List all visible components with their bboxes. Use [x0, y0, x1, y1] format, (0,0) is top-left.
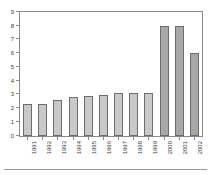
y-axis-tick-label: 2	[11, 105, 16, 111]
bottom-divider-rule	[4, 169, 207, 170]
bar-slot	[141, 12, 156, 136]
x-axis-label-slot: 2001	[172, 141, 187, 167]
y-axis-tick-mark	[16, 107, 19, 108]
x-axis-tick-mark	[179, 137, 180, 140]
bar-chart-figure: 0123456789 19911992199319941995199619971…	[0, 0, 211, 175]
bar	[69, 97, 78, 136]
y-axis-tick: 0	[11, 130, 19, 140]
bar	[99, 95, 108, 136]
bar	[53, 100, 62, 136]
x-axis-tick-mark	[73, 137, 74, 140]
y-axis-tick: 3	[11, 89, 19, 99]
bar	[190, 53, 199, 136]
y-axis-tick-mark	[16, 66, 19, 67]
bar	[38, 104, 47, 136]
y-axis-tick: 9	[11, 6, 19, 16]
bar-slot	[126, 12, 141, 136]
y-axis-tick: 8	[11, 20, 19, 30]
x-axis-label-slot: 1998	[126, 141, 141, 167]
bar	[114, 93, 123, 136]
y-axis-tick-mark	[16, 135, 19, 136]
x-axis-tick-mark	[194, 137, 195, 140]
x-axis-label-slot: 1994	[66, 141, 81, 167]
y-axis-tick-label: 9	[11, 9, 16, 15]
y-axis-tick: 7	[11, 34, 19, 44]
x-axis-label-slot: 1999	[141, 141, 156, 167]
bar	[23, 104, 32, 136]
y-axis-tick: 5	[11, 61, 19, 71]
y-axis-tick: 1	[11, 116, 19, 126]
y-axis-tick-mark	[16, 121, 19, 122]
y-axis-tick-mark	[16, 25, 19, 26]
bar	[175, 26, 184, 136]
bar-slot	[96, 12, 111, 136]
x-axis-tick-mark	[88, 137, 89, 140]
x-axis-label-slot: 1996	[96, 141, 111, 167]
y-axis-tick-mark	[16, 38, 19, 39]
bar	[144, 93, 153, 136]
bar-slot	[157, 12, 172, 136]
x-axis-tick-mark	[42, 137, 43, 140]
bar-slot	[20, 12, 35, 136]
x-axis-label-slot: 1991	[20, 141, 35, 167]
x-axis-tick-mark	[133, 137, 134, 140]
y-axis-tick-mark	[16, 93, 19, 94]
bar-slot	[187, 12, 202, 136]
bar-slot	[172, 12, 187, 136]
y-axis-tick-label: 4	[11, 78, 16, 84]
y-axis: 0123456789	[0, 11, 19, 137]
x-axis-tick-mark	[164, 137, 165, 140]
x-axis-label-slot: 1995	[81, 141, 96, 167]
y-axis-tick-label: 0	[11, 133, 16, 139]
y-axis-tick-label: 1	[11, 119, 16, 125]
bar-slot	[81, 12, 96, 136]
x-axis-label-slot: 1992	[35, 141, 50, 167]
x-axis-label-slot: 1993	[50, 141, 65, 167]
x-axis-label-slot: 1997	[111, 141, 126, 167]
bar-slot	[50, 12, 65, 136]
y-axis-tick-mark	[16, 80, 19, 81]
x-axis-tick-mark	[27, 137, 28, 140]
bar-slot	[66, 12, 81, 136]
bar-slot	[35, 12, 50, 136]
x-axis-tick-mark	[57, 137, 58, 140]
y-axis-tick-label: 3	[11, 91, 16, 97]
y-axis-tick-mark	[16, 11, 19, 12]
bar	[129, 93, 138, 136]
x-axis-tick-mark	[148, 137, 149, 140]
x-axis-tick-mark	[103, 137, 104, 140]
y-axis-tick: 6	[11, 47, 19, 57]
y-axis-tick: 4	[11, 75, 19, 85]
bar	[160, 26, 169, 136]
y-axis-tick-mark	[16, 52, 19, 53]
x-axis-labels: 1991199219931994199519961997199819992000…	[20, 141, 202, 167]
bar-slot	[111, 12, 126, 136]
bar	[84, 96, 93, 136]
x-axis-label: 2002	[197, 141, 203, 154]
x-axis-label-slot: 2000	[157, 141, 172, 167]
x-axis-label-slot: 2002	[187, 141, 202, 167]
y-axis-tick-label: 6	[11, 50, 16, 56]
y-axis-tick-label: 5	[11, 64, 16, 70]
y-axis-tick-label: 7	[11, 36, 16, 42]
y-axis-tick-label: 8	[11, 23, 16, 29]
x-axis-tick-mark	[118, 137, 119, 140]
bar-series	[20, 12, 202, 136]
y-axis-tick: 2	[11, 102, 19, 112]
